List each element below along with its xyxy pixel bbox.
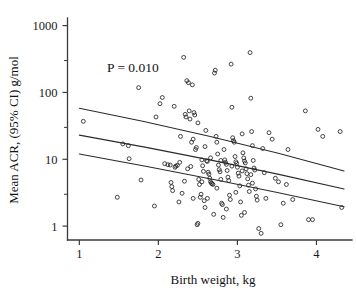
y-tick-label-1: 1 — [51, 220, 57, 234]
x-tick-label-1: 1 — [76, 247, 82, 261]
chart-background — [0, 0, 356, 295]
p-value-annotation: P = 0.010 — [107, 60, 159, 75]
x-tick-label-2: 2 — [155, 247, 161, 261]
chart-annotations: P = 0.010 — [107, 60, 159, 75]
y-tick-label-1000: 1000 — [33, 19, 58, 33]
y-tick-label-100: 100 — [39, 86, 58, 100]
scatter-plot-svg: 1101001000 1234 P = 0.010 Birth weight, … — [0, 0, 356, 295]
chart-figure: 1101001000 1234 P = 0.010 Birth weight, … — [0, 0, 356, 295]
y-tick-label-10: 10 — [45, 153, 58, 167]
x-tick-label-3: 3 — [234, 247, 240, 261]
x-tick-label-4: 4 — [313, 247, 320, 261]
x-axis-title: Birth weight, kg — [171, 272, 256, 287]
y-axis-title: Mean ACR, (95% CI) g/mol — [6, 56, 21, 204]
